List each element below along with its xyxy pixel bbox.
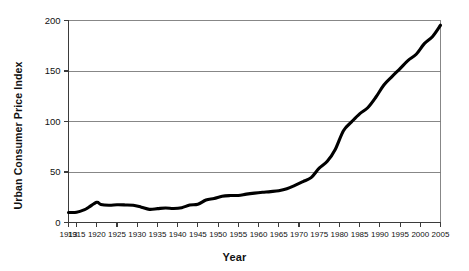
- x-tick-label-1935: 1935: [149, 230, 167, 239]
- y-tick-label-100: 100: [45, 116, 61, 127]
- cpi-line-chart: Urban Consumer Price Index 050100150200 …: [0, 0, 469, 271]
- x-tick-label-2005: 2005: [432, 230, 450, 239]
- data-series: [69, 25, 441, 212]
- plot-area: 050100150200 191319151920192519301935194…: [0, 0, 469, 271]
- x-tick-label-1965: 1965: [270, 230, 288, 239]
- y-tick-label-0: 0: [55, 217, 60, 228]
- y-axis-ticks: [64, 21, 69, 223]
- x-tick-label-1940: 1940: [169, 230, 187, 239]
- x-axis-ticks: [69, 223, 441, 228]
- x-tick-label-1945: 1945: [189, 230, 207, 239]
- x-tick-label-1975: 1975: [310, 230, 328, 239]
- x-tick-label-1920: 1920: [88, 230, 106, 239]
- y-tick-label-200: 200: [45, 15, 61, 26]
- gridlines: [69, 21, 441, 173]
- y-tick-label-50: 50: [50, 166, 61, 177]
- y-tick-label-150: 150: [45, 65, 61, 76]
- x-tick-label-1980: 1980: [331, 230, 349, 239]
- x-tick-label-1950: 1950: [209, 230, 227, 239]
- x-tick-label-1990: 1990: [371, 230, 389, 239]
- x-tick-label-1985: 1985: [351, 230, 369, 239]
- x-tick-labels: 1913191519201925193019351940194519501955…: [60, 230, 450, 239]
- x-tick-label-1970: 1970: [290, 230, 308, 239]
- x-tick-label-1955: 1955: [229, 230, 247, 239]
- x-tick-label-1995: 1995: [391, 230, 409, 239]
- x-tick-label-1925: 1925: [108, 230, 126, 239]
- y-tick-labels: 050100150200: [45, 15, 61, 228]
- x-tick-label-1915: 1915: [68, 230, 86, 239]
- series-line-0: [69, 25, 441, 212]
- x-tick-label-2000: 2000: [411, 230, 429, 239]
- x-axis-title: Year: [0, 251, 469, 263]
- x-tick-label-1960: 1960: [250, 230, 268, 239]
- x-tick-label-1930: 1930: [128, 230, 146, 239]
